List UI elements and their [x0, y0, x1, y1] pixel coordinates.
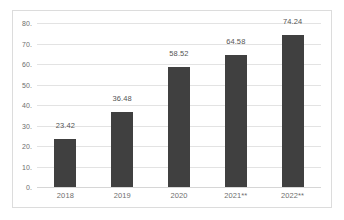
y-axis-tick-label: 10.	[22, 163, 32, 170]
gridline	[37, 187, 321, 188]
y-axis-tick-label: 20.	[22, 143, 32, 150]
x-axis-tick-label: 2020	[151, 191, 208, 200]
bar-slot: 64.58	[207, 23, 264, 187]
bar[interactable]	[168, 67, 190, 187]
bar-value-label: 58.52	[169, 49, 188, 58]
chart-container: 80.70.60.50.40.30.20.10.0. 23.4236.4858.…	[12, 10, 332, 208]
y-axis-tick-label: 80.	[22, 20, 32, 27]
y-axis-tick-label: 40.	[22, 102, 32, 109]
bar[interactable]	[111, 112, 133, 187]
x-axis-tick-label: 2021**	[207, 191, 264, 200]
plot-area: 80.70.60.50.40.30.20.10.0. 23.4236.4858.…	[37, 23, 321, 187]
y-axis-tick-label: 50.	[22, 81, 32, 88]
y-axis-tick-label: 60.	[22, 61, 32, 68]
bar-slot: 36.48	[94, 23, 151, 187]
y-axis-tick-label: 70.	[22, 40, 32, 47]
bar[interactable]	[54, 139, 76, 187]
x-axis-tick-label: 2019	[94, 191, 151, 200]
y-axis-tick-label: 30.	[22, 122, 32, 129]
bar[interactable]	[282, 35, 304, 187]
bar[interactable]	[225, 55, 247, 187]
x-axis-tick-label: 2022**	[264, 191, 321, 200]
bar-series: 23.4236.4858.5264.5874.24	[37, 23, 321, 187]
y-axis-tick-label: 0.	[26, 184, 32, 191]
bar-value-label: 74.24	[283, 17, 302, 26]
bar-slot: 23.42	[37, 23, 94, 187]
x-axis-tick-label: 2018	[37, 191, 94, 200]
bar-slot: 58.52	[151, 23, 208, 187]
bar-slot: 74.24	[264, 23, 321, 187]
bar-value-label: 64.58	[226, 37, 245, 46]
bar-value-label: 36.48	[113, 94, 132, 103]
bar-value-label: 23.42	[56, 121, 75, 130]
x-axis: 2018201920202021**2022**	[37, 191, 321, 200]
